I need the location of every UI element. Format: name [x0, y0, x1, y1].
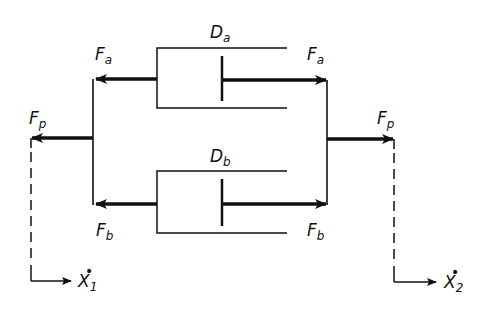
- label-velocity-x1: •X1: [78, 273, 97, 293]
- label-fb-left: Fb: [96, 222, 113, 242]
- label-damper-b: Db: [210, 148, 231, 168]
- label-damper-a: Da: [210, 24, 230, 44]
- label-fa-left: Fa: [95, 46, 112, 66]
- damper-diagram: Da Db Fa Fa Fb Fb Fp Fp •X1 •X2: [0, 0, 494, 311]
- diagram-lines: [0, 0, 494, 311]
- label-fb-right: Fb: [307, 222, 324, 242]
- label-fa-right: Fa: [307, 46, 324, 66]
- label-fp-left: Fp: [29, 110, 46, 130]
- label-velocity-x2: •X2: [444, 274, 463, 294]
- label-fp-right: Fp: [377, 110, 394, 130]
